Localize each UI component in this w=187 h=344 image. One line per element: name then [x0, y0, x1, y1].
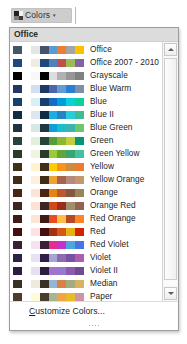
- color-swatch: [13, 111, 22, 119]
- color-swatch: [31, 189, 40, 197]
- color-theme-name: Yellow Orange: [90, 175, 144, 183]
- color-theme-row[interactable]: Paper: [10, 290, 162, 301]
- color-theme-row[interactable]: Red: [10, 225, 162, 238]
- color-theme-row[interactable]: Red Violet: [10, 238, 162, 251]
- color-swatch: [75, 163, 84, 171]
- color-swatch: [57, 59, 66, 67]
- color-swatch: [57, 189, 66, 197]
- color-swatch: [31, 72, 40, 80]
- color-swatch: [75, 124, 84, 132]
- color-swatch: [49, 124, 58, 132]
- color-swatch: [22, 85, 31, 93]
- color-swatch: [57, 72, 66, 80]
- color-theme-swatches: [13, 189, 84, 197]
- color-swatch: [22, 46, 31, 54]
- color-swatch: [66, 215, 75, 223]
- color-swatch: [75, 202, 84, 210]
- color-swatch: [40, 189, 49, 197]
- color-theme-row[interactable]: Yellow: [10, 160, 162, 173]
- color-swatch: [13, 59, 22, 67]
- color-theme-swatches: [13, 228, 84, 236]
- color-swatch: [13, 228, 22, 236]
- color-swatch: [40, 202, 49, 210]
- color-swatch: [49, 280, 58, 288]
- color-swatch: [22, 59, 31, 67]
- color-theme-name: Blue Warm: [90, 84, 131, 92]
- color-swatch: [66, 85, 75, 93]
- color-swatch: [22, 215, 31, 223]
- color-swatch: [49, 46, 58, 54]
- color-theme-swatches: [13, 124, 84, 132]
- color-swatch: [31, 228, 40, 236]
- color-theme-swatches: [13, 163, 84, 171]
- color-swatch: [31, 293, 40, 301]
- color-theme-row[interactable]: Green Yellow: [10, 147, 162, 160]
- color-theme-swatches: [13, 215, 84, 223]
- scroll-down-arrow-icon[interactable]: [164, 287, 177, 300]
- color-theme-row[interactable]: Blue Green: [10, 121, 162, 134]
- color-swatch: [66, 228, 75, 236]
- color-swatch: [13, 150, 22, 158]
- color-swatch: [66, 137, 75, 145]
- color-swatch: [57, 150, 66, 158]
- color-theme-name: Yellow: [90, 162, 114, 170]
- color-theme-row[interactable]: Violet II: [10, 264, 162, 277]
- scrollbar-thumb[interactable]: [164, 58, 177, 280]
- color-theme-name: Orange: [90, 188, 118, 196]
- color-theme-swatches: [13, 150, 84, 158]
- color-swatch: [40, 59, 49, 67]
- color-swatch: [49, 241, 58, 249]
- color-theme-row[interactable]: Orange: [10, 186, 162, 199]
- color-theme-name: Paper: [90, 292, 112, 300]
- gallery-scroll-area[interactable]: OfficeOffice 2007 - 2010GrayscaleBlue Wa…: [10, 42, 178, 301]
- color-theme-row[interactable]: Blue II: [10, 108, 162, 121]
- scroll-up-arrow-icon[interactable]: [164, 43, 177, 56]
- color-theme-name: Blue II: [90, 110, 114, 118]
- color-theme-row[interactable]: Yellow Orange: [10, 173, 162, 186]
- color-theme-gallery-screen: Colors ▾ Office OfficeOffice 2007 - 2010…: [0, 0, 187, 344]
- color-theme-row[interactable]: Blue: [10, 95, 162, 108]
- vertical-scrollbar[interactable]: [162, 42, 178, 301]
- color-swatch: [57, 111, 66, 119]
- color-swatch: [40, 111, 49, 119]
- color-theme-swatches: [13, 59, 84, 67]
- color-swatch: [49, 163, 58, 171]
- color-swatch: [66, 280, 75, 288]
- color-swatch: [22, 254, 31, 262]
- color-swatch: [31, 176, 40, 184]
- color-theme-swatches: [13, 85, 84, 93]
- color-theme-name: Red Violet: [90, 240, 129, 248]
- color-theme-name: Median: [90, 279, 118, 287]
- color-swatch: [57, 241, 66, 249]
- resize-grip-icon[interactable]: [89, 325, 99, 326]
- color-theme-row[interactable]: Red Orange: [10, 212, 162, 225]
- color-swatch: [57, 267, 66, 275]
- color-swatch: [66, 241, 75, 249]
- color-theme-row[interactable]: Office 2007 - 2010: [10, 56, 162, 69]
- color-swatch: [49, 85, 58, 93]
- gallery-group-header: Office: [10, 28, 178, 42]
- color-theme-row[interactable]: Green: [10, 134, 162, 147]
- chevron-down-icon[interactable]: ▾: [53, 13, 56, 18]
- color-swatch: [75, 111, 84, 119]
- color-theme-row[interactable]: Violet: [10, 251, 162, 264]
- color-swatch: [13, 215, 22, 223]
- color-swatch: [40, 46, 49, 54]
- color-swatch: [40, 215, 49, 223]
- color-swatch: [66, 189, 75, 197]
- customize-colors-button[interactable]: Customize Colors...: [29, 307, 105, 316]
- color-swatch: [49, 215, 58, 223]
- colors-dropdown-button[interactable]: Colors ▾: [11, 8, 72, 23]
- color-swatch: [57, 124, 66, 132]
- color-theme-row[interactable]: Blue Warm: [10, 82, 162, 95]
- color-swatch: [31, 137, 40, 145]
- color-theme-row[interactable]: Median: [10, 277, 162, 290]
- color-palette-swatch-icon: [14, 11, 23, 20]
- color-theme-row[interactable]: Orange Red: [10, 199, 162, 212]
- color-swatch: [31, 150, 40, 158]
- color-swatch: [66, 46, 75, 54]
- color-theme-row[interactable]: Office: [10, 43, 162, 56]
- color-swatch: [66, 293, 75, 301]
- color-theme-row[interactable]: Grayscale: [10, 69, 162, 82]
- color-theme-name: Office 2007 - 2010: [90, 58, 159, 66]
